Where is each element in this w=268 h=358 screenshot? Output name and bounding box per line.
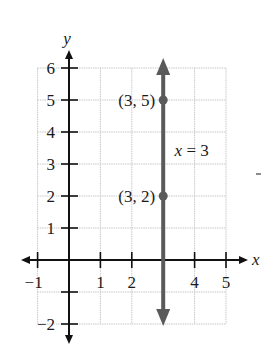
x-tick-label: −1 — [25, 273, 43, 292]
x-tick-label: 2 — [128, 273, 137, 292]
point-marker — [159, 96, 168, 105]
line-arrow-down-icon — [156, 309, 170, 326]
y-axis-arrow-up-icon — [65, 50, 73, 59]
x-tick-label: 1 — [96, 273, 105, 292]
y-tick-label: 6 — [47, 59, 56, 78]
y-axis-label: y — [61, 29, 71, 48]
x-axis-label: x — [251, 250, 260, 269]
plotted-points: (3, 5)(3, 2) — [118, 91, 167, 206]
point-label: (3, 5) — [118, 91, 155, 110]
x-axis-arrow-right-icon — [239, 256, 248, 264]
point-marker — [159, 192, 168, 201]
y-tick-label: 3 — [47, 155, 56, 174]
y-axis-arrow-down-icon — [65, 335, 73, 344]
y-tick-label: −2 — [37, 315, 55, 334]
y-tick-label: 4 — [47, 123, 56, 142]
x-tick-label: 5 — [222, 273, 231, 292]
y-tick-label: 5 — [47, 91, 56, 110]
line-arrow-up-icon — [156, 58, 170, 75]
point-label: (3, 2) — [118, 187, 155, 206]
x-tick-label: 4 — [190, 273, 199, 292]
line-equation-label: x = 3 — [174, 141, 209, 160]
x-axis-arrow-left-icon — [21, 256, 30, 264]
y-tick-label: 2 — [47, 187, 56, 206]
y-tick-label: 1 — [47, 219, 56, 238]
coordinate-plane: −11245−2123456 (3, 5)(3, 2) x = 3xy — [0, 0, 268, 358]
